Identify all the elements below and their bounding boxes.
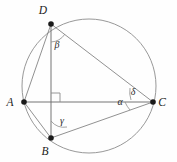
geometry-canvas: A B C D β γ α δ bbox=[0, 0, 177, 162]
angle-label-beta: β bbox=[54, 39, 60, 50]
segment-AD bbox=[24, 24, 51, 102]
angle-label-delta: δ bbox=[131, 86, 136, 97]
vertex-dot-B bbox=[48, 135, 54, 141]
vertex-dot-A bbox=[21, 99, 27, 105]
segment-AB bbox=[24, 102, 51, 138]
angle-label-alpha: α bbox=[117, 96, 123, 107]
vertex-label-A: A bbox=[5, 96, 14, 108]
vertex-dot-C bbox=[150, 99, 156, 105]
segment-DC bbox=[51, 24, 153, 102]
vertex-label-C: C bbox=[158, 96, 166, 108]
right-angle-icon bbox=[51, 93, 60, 102]
vertex-dot-D bbox=[48, 21, 54, 27]
angle-label-gamma: γ bbox=[60, 115, 65, 126]
angle-arc-gamma bbox=[51, 121, 67, 127]
circumcircle bbox=[22, 19, 156, 153]
angle-arc-alpha bbox=[125, 102, 130, 110]
geometry-figure: A B C D β γ α δ bbox=[0, 0, 177, 162]
vertex-label-B: B bbox=[41, 145, 48, 157]
vertex-label-D: D bbox=[38, 4, 48, 16]
